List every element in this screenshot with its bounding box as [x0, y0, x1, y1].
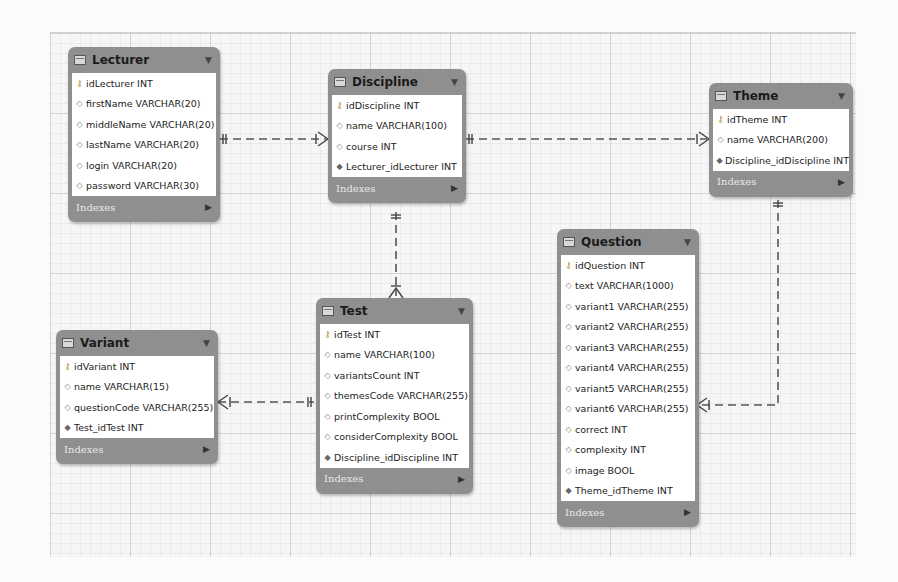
column-row[interactable]: ◇name VARCHAR(15)	[60, 377, 214, 398]
column-row[interactable]: ◇variant6 VARCHAR(255)	[561, 399, 695, 420]
column-row[interactable]: ◇questionCode VARCHAR(255)	[60, 397, 214, 418]
column-row[interactable]: ◇firstName VARCHAR(20)	[72, 94, 216, 115]
column-row[interactable]: ◇text VARCHAR(1000)	[561, 276, 695, 297]
indexes-section[interactable]: Indexes ▶	[60, 438, 214, 460]
chevron-down-icon[interactable]: ▼	[458, 306, 465, 316]
diamond-outline-icon: ◇	[323, 391, 332, 400]
column-row[interactable]: ◇middleName VARCHAR(20)	[72, 114, 216, 135]
triangle-right-icon[interactable]: ▶	[205, 202, 212, 212]
column-row[interactable]: ⚷idTest INT	[320, 324, 469, 345]
table-header[interactable]: Theme ▼	[713, 83, 849, 109]
table-question[interactable]: Question ▼ ⚷idQuestion INT ◇text VARCHAR…	[557, 229, 699, 527]
column-row[interactable]: ◇name VARCHAR(100)	[320, 345, 469, 366]
table-lecturer[interactable]: Lecturer ▼ ⚷idLecturer INT ◇firstName VA…	[68, 47, 220, 222]
table-name: Test	[340, 304, 458, 318]
column-row[interactable]: ◇lastName VARCHAR(20)	[72, 135, 216, 156]
table-theme[interactable]: Theme ▼ ⚷idTheme INT ◇name VARCHAR(200) …	[709, 83, 853, 197]
column-row[interactable]: ◇name VARCHAR(200)	[713, 130, 849, 151]
key-icon: ⚷	[323, 329, 332, 339]
table-test[interactable]: Test ▼ ⚷idTest INT ◇name VARCHAR(100) ◇v…	[316, 298, 473, 494]
chevron-down-icon[interactable]: ▼	[205, 55, 212, 65]
table-header[interactable]: Question ▼	[561, 229, 695, 255]
chevron-down-icon[interactable]: ▼	[203, 338, 210, 348]
triangle-right-icon[interactable]: ▶	[451, 183, 458, 193]
column-row[interactable]: ◆Theme_idTheme INT	[561, 481, 695, 502]
indexes-section[interactable]: Indexes ▶	[72, 196, 216, 218]
column-row[interactable]: ◆Discipline_idDiscipline INT	[320, 447, 469, 468]
column-row[interactable]: ◆Test_idTest INT	[60, 418, 214, 439]
table-header[interactable]: Lecturer ▼	[72, 47, 216, 73]
diamond-outline-icon: ◇	[564, 281, 573, 290]
column-row[interactable]: ◇variant1 VARCHAR(255)	[561, 296, 695, 317]
indexes-section[interactable]: Indexes ▶	[713, 171, 849, 193]
key-icon: ⚷	[716, 114, 725, 124]
diamond-outline-icon: ◇	[323, 350, 332, 359]
table-header[interactable]: Test ▼	[320, 298, 469, 324]
diamond-outline-icon: ◇	[335, 121, 344, 130]
diamond-outline-icon: ◇	[63, 403, 72, 412]
column-row[interactable]: ◇login VARCHAR(20)	[72, 155, 216, 176]
column-list: ⚷idTest INT ◇name VARCHAR(100) ◇variants…	[320, 324, 469, 468]
diamond-filled-icon: ◆	[63, 423, 72, 432]
table-icon	[322, 306, 334, 316]
triangle-right-icon[interactable]: ▶	[838, 177, 845, 187]
diamond-outline-icon: ◇	[564, 363, 573, 372]
column-row[interactable]: ⚷idVariant INT	[60, 356, 214, 377]
column-row[interactable]: ◇password VARCHAR(30)	[72, 176, 216, 197]
key-icon: ⚷	[63, 361, 72, 371]
table-icon	[715, 91, 727, 101]
diamond-outline-icon: ◇	[323, 432, 332, 441]
chevron-down-icon[interactable]: ▼	[838, 91, 845, 101]
column-row[interactable]: ◇correct INT	[561, 419, 695, 440]
column-row[interactable]: ◇variant3 VARCHAR(255)	[561, 337, 695, 358]
table-variant[interactable]: Variant ▼ ⚷idVariant INT ◇name VARCHAR(1…	[56, 330, 218, 464]
diamond-outline-icon: ◇	[75, 140, 84, 149]
chevron-down-icon[interactable]: ▼	[684, 237, 691, 247]
column-row[interactable]: ◆Lecturer_idLecturer INT	[332, 157, 462, 178]
diamond-outline-icon: ◇	[323, 371, 332, 380]
column-row[interactable]: ◇complexity INT	[561, 440, 695, 461]
diamond-filled-icon: ◆	[335, 162, 344, 171]
column-row[interactable]: ◇variant5 VARCHAR(255)	[561, 378, 695, 399]
key-icon: ⚷	[335, 100, 344, 110]
column-row[interactable]: ⚷idQuestion INT	[561, 255, 695, 276]
table-icon	[62, 338, 74, 348]
column-row[interactable]: ⚷idTheme INT	[713, 109, 849, 130]
diamond-outline-icon: ◇	[63, 382, 72, 391]
indexes-section[interactable]: Indexes ▶	[320, 468, 469, 490]
column-list: ⚷idLecturer INT ◇firstName VARCHAR(20) ◇…	[72, 73, 216, 196]
table-name: Theme	[733, 89, 838, 103]
table-header[interactable]: Variant ▼	[60, 330, 214, 356]
column-list: ⚷idVariant INT ◇name VARCHAR(15) ◇questi…	[60, 356, 214, 438]
diamond-filled-icon: ◆	[716, 156, 723, 165]
column-row[interactable]: ◇themesCode VARCHAR(255)	[320, 386, 469, 407]
column-row[interactable]: ◇image BOOL	[561, 460, 695, 481]
column-row[interactable]: ◇considerComplexity BOOL	[320, 427, 469, 448]
column-row[interactable]: ◇variant2 VARCHAR(255)	[561, 317, 695, 338]
column-row[interactable]: ◇name VARCHAR(100)	[332, 116, 462, 137]
column-row[interactable]: ◇variantsCount INT	[320, 365, 469, 386]
triangle-right-icon[interactable]: ▶	[203, 444, 210, 454]
diamond-outline-icon: ◇	[323, 412, 332, 421]
diamond-outline-icon: ◇	[564, 343, 573, 352]
table-icon	[334, 77, 346, 87]
triangle-right-icon[interactable]: ▶	[684, 507, 691, 517]
column-row[interactable]: ◇printComplexity BOOL	[320, 406, 469, 427]
rel-theme-question[interactable]	[699, 200, 778, 405]
indexes-section[interactable]: Indexes ▶	[332, 177, 462, 199]
column-row[interactable]: ⚷idLecturer INT	[72, 73, 216, 94]
diamond-filled-icon: ◆	[564, 486, 573, 495]
chevron-down-icon[interactable]: ▼	[451, 77, 458, 87]
table-icon	[74, 55, 86, 65]
column-row[interactable]: ◇course INT	[332, 136, 462, 157]
indexes-section[interactable]: Indexes ▶	[561, 501, 695, 523]
column-row[interactable]: ⚷idDiscipline INT	[332, 95, 462, 116]
triangle-right-icon[interactable]: ▶	[458, 474, 465, 484]
column-row[interactable]: ◆Discipline_idDiscipline INT	[713, 150, 849, 171]
table-header[interactable]: Discipline ▼	[332, 69, 462, 95]
table-discipline[interactable]: Discipline ▼ ⚷idDiscipline INT ◇name VAR…	[328, 69, 466, 203]
column-row[interactable]: ◇variant4 VARCHAR(255)	[561, 358, 695, 379]
column-list: ⚷idQuestion INT ◇text VARCHAR(1000) ◇var…	[561, 255, 695, 501]
key-icon: ⚷	[75, 78, 84, 88]
diamond-outline-icon: ◇	[75, 120, 84, 129]
